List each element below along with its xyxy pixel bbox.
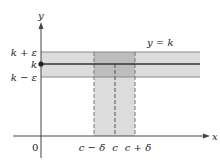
x-axis-arrow-icon <box>203 134 210 139</box>
c-minus-delta-label: c − δ <box>79 142 105 153</box>
y-equals-k-label: y = k <box>146 37 173 48</box>
k-label: k <box>31 59 37 70</box>
y-axis-label: y <box>37 10 44 21</box>
k-point <box>38 61 43 66</box>
c-plus-delta-label: c + δ <box>125 142 151 153</box>
c-label: c <box>112 142 118 153</box>
k-minus-epsilon-label: k − ε <box>11 72 37 83</box>
k-plus-epsilon-label: k + ε <box>11 47 37 58</box>
epsilon-delta-diagram: y x 0 k + ε k k − ε y = k c − δ c c + δ <box>0 0 220 161</box>
origin-label: 0 <box>32 142 38 153</box>
y-axis-arrow-icon <box>39 22 44 29</box>
x-axis-label: x <box>212 131 218 142</box>
